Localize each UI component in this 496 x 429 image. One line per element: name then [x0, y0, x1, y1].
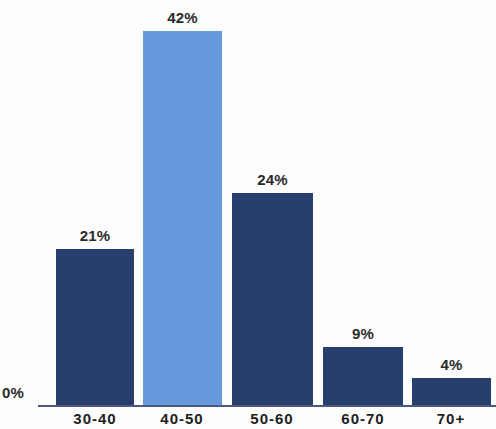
- bar-50-60[interactable]: 24%: [232, 193, 313, 406]
- bar-fill: [412, 378, 491, 406]
- bar-60-70[interactable]: 9%: [323, 347, 403, 406]
- bar-fill: [323, 347, 403, 406]
- bar-chart: 21%42%24%9%4% 0% 30-4040-5050-6060-7070+: [0, 0, 496, 429]
- category-axis: 30-4040-5050-6060-7070+: [0, 408, 496, 429]
- plot-area: 21%42%24%9%4%: [0, 0, 496, 406]
- bar-40-50[interactable]: 42%: [143, 31, 222, 406]
- bar-value-label: 42%: [143, 9, 222, 26]
- y-axis-zero-label: 0%: [2, 384, 24, 401]
- bar-70plus[interactable]: 4%: [412, 378, 491, 406]
- bar-value-label: 21%: [56, 227, 134, 244]
- bar-value-label: 4%: [412, 356, 491, 373]
- bar-fill: [143, 31, 222, 406]
- category-label-70plus: 70+: [391, 410, 496, 427]
- bar-fill: [232, 193, 313, 406]
- bar-value-label: 24%: [232, 171, 313, 188]
- bar-fill: [56, 249, 134, 406]
- bar-value-label: 9%: [323, 325, 403, 342]
- x-axis-line: [38, 405, 496, 407]
- bar-30-40[interactable]: 21%: [56, 249, 134, 406]
